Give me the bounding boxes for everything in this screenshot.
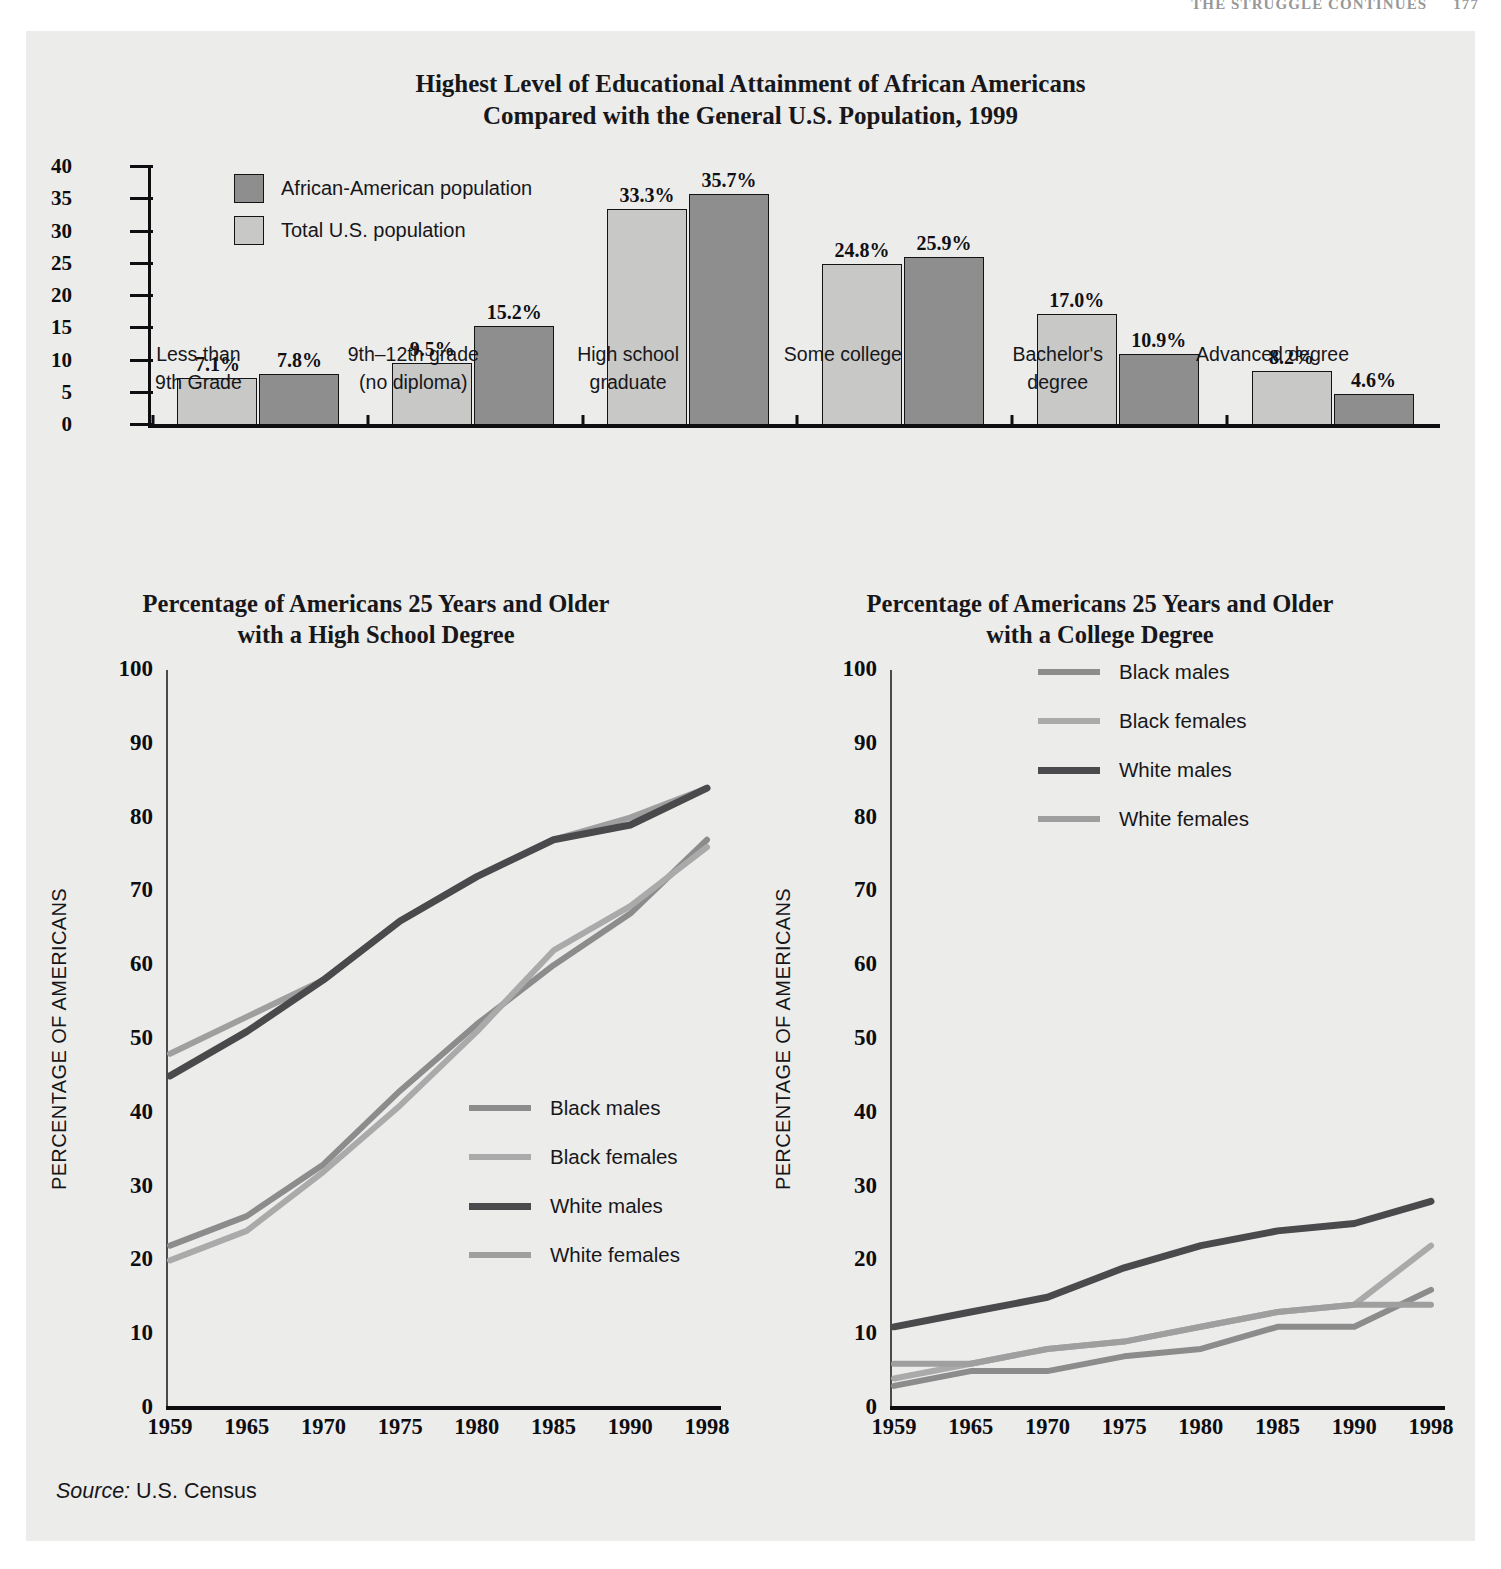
bar-chart-title-line2: Compared with the General U.S. Populatio…	[26, 100, 1475, 132]
line-chart-x-tick-label: 1990	[608, 1414, 653, 1440]
bar-chart-y-tick-label: 0	[30, 412, 72, 437]
bar-category-label-line: (no diploma)	[306, 368, 521, 396]
bar-chart-y-tick	[130, 294, 153, 297]
bar-category-label-line: Less than	[91, 340, 306, 368]
bar-chart-category-labels: Less than9th Grade9th–12th grade(no dipl…	[91, 340, 1380, 397]
bar-category-label: Less than9th Grade	[91, 340, 306, 397]
line-chart-x-tick-label: 1975	[1102, 1414, 1147, 1440]
line-chart-y-tick-label: 60	[817, 951, 877, 977]
line-chart-x-tick-label: 1965	[948, 1414, 993, 1440]
bar-chart-y-tick	[130, 423, 153, 426]
bar-category-label-line: Some college	[735, 340, 950, 368]
line-chart-y-tick-label: 80	[817, 804, 877, 830]
line-chart-y-tick-label: 70	[817, 877, 877, 903]
line-chart-x-tick-label: 1985	[1255, 1414, 1300, 1440]
source-label: Source:	[56, 1479, 130, 1503]
bar-chart-y-tick	[130, 326, 153, 329]
bar-category-label: 9th–12th grade(no diploma)	[306, 340, 521, 397]
line-chart-x-tick-label: 1980	[454, 1414, 499, 1440]
line-chart-y-tick-label: 70	[93, 877, 153, 903]
bar-chart-title-line1: Highest Level of Educational Attainment …	[26, 68, 1475, 100]
line-legend-swatch-icon	[1038, 767, 1100, 774]
line-chart-high-school-title-line1: Percentage of Americans 25 Years and Old…	[14, 588, 738, 619]
running-head-page-number: 177	[1453, 0, 1479, 12]
bar-category-label: Advanced degree	[1165, 340, 1380, 397]
line-series-white-males	[170, 788, 707, 1076]
line-chart-college-title-line1: Percentage of Americans 25 Years and Old…	[738, 588, 1462, 619]
bar-category-label-line: degree	[950, 368, 1165, 396]
bar-chart-y-tick	[130, 197, 153, 200]
line-chart-college-title: Percentage of Americans 25 Years and Old…	[738, 588, 1462, 651]
bar-category-label-line: High school	[521, 340, 736, 368]
line-chart-high-school-plot-area: 0102030405060708090100195919651970197519…	[166, 670, 721, 1408]
bar-category-label-line: 9th–12th grade	[306, 340, 521, 368]
source-value: U.S. Census	[136, 1479, 257, 1503]
line-legend-label: Black females	[1119, 709, 1247, 733]
line-chart-high-school-legend: Black malesBlack femalesWhite malesWhite…	[469, 1096, 680, 1292]
bar-category-label: Bachelor'sdegree	[950, 340, 1165, 397]
line-chart-y-tick-label: 30	[817, 1173, 877, 1199]
line-chart-college-figure: Percentage of Americans 25 Years and Old…	[738, 588, 1462, 1488]
bar-chart-y-tick-label: 40	[30, 154, 72, 179]
line-chart-x-tick-label: 1985	[531, 1414, 576, 1440]
line-chart-y-tick-label: 20	[93, 1246, 153, 1272]
bar-chart-title: Highest Level of Educational Attainment …	[26, 68, 1475, 132]
line-chart-college-legend: Black malesBlack femalesWhite malesWhite…	[1038, 660, 1249, 856]
bar-group-tick	[1011, 415, 1014, 424]
bar-category-label-line: Bachelor's	[950, 340, 1165, 368]
line-chart-y-tick-label: 40	[817, 1099, 877, 1125]
line-legend-item-black-females: Black females	[1038, 709, 1249, 733]
bar-category-label-line: 9th Grade	[91, 368, 306, 396]
bar-chart-y-tick-label: 5	[30, 380, 72, 405]
line-legend-item-white-females: White females	[1038, 807, 1249, 831]
line-legend-item-black-males: Black males	[469, 1096, 680, 1120]
line-legend-swatch-icon	[1038, 816, 1100, 822]
bar-chart-y-tick-label: 15	[30, 315, 72, 340]
line-legend-swatch-icon	[1038, 718, 1100, 724]
line-chart-y-tick-label: 10	[817, 1320, 877, 1346]
bar-chart-y-tick	[130, 262, 153, 265]
line-legend-swatch-icon	[1038, 669, 1100, 675]
line-chart-high-school-lines	[166, 670, 721, 1408]
line-chart-high-school-figure: Percentage of Americans 25 Years and Old…	[14, 588, 738, 1488]
line-chart-x-tick-label: 1990	[1332, 1414, 1377, 1440]
line-legend-label: Black males	[550, 1096, 661, 1120]
line-chart-y-tick-label: 100	[93, 656, 153, 682]
bar-value-label: 24.8%	[834, 239, 889, 262]
line-legend-item-black-males: Black males	[1038, 660, 1249, 684]
line-chart-y-tick-label: 100	[817, 656, 877, 682]
line-legend-label: White males	[550, 1194, 663, 1218]
bar-value-label: 35.7%	[702, 169, 757, 192]
line-chart-x-tick-label: 1980	[1178, 1414, 1223, 1440]
bar-group-tick	[1226, 415, 1229, 424]
line-chart-high-school-title: Percentage of Americans 25 Years and Old…	[14, 588, 738, 651]
bar-group-tick	[581, 415, 584, 424]
bar-value-label: 15.2%	[487, 301, 542, 324]
source-note: Source: U.S. Census	[56, 1479, 257, 1504]
line-chart-x-tick-label: 1965	[224, 1414, 269, 1440]
bar-chart-figure: Highest Level of Educational Attainment …	[26, 60, 1475, 560]
bar-value-label: 33.3%	[620, 184, 675, 207]
line-chart-x-tick-label: 1970	[1025, 1414, 1070, 1440]
line-chart-x-tick-label: 1998	[1409, 1414, 1454, 1440]
bar-chart-y-tick-label: 20	[30, 283, 72, 308]
bar-chart-y-tick	[130, 165, 153, 168]
line-chart-x-tick-label: 1959	[872, 1414, 917, 1440]
line-chart-y-tick-label: 50	[93, 1025, 153, 1051]
line-chart-y-tick-label: 90	[817, 730, 877, 756]
line-chart-college-y-axis-title: PERCENTAGE OF AMERICANS	[772, 888, 795, 1190]
line-chart-y-tick-label: 40	[93, 1099, 153, 1125]
line-chart-y-tick-label: 60	[93, 951, 153, 977]
line-legend-label: Black males	[1119, 660, 1230, 684]
line-chart-y-tick-label: 10	[93, 1320, 153, 1346]
line-legend-item-black-females: Black females	[469, 1145, 680, 1169]
line-legend-swatch-icon	[469, 1154, 531, 1160]
bar-group-tick	[366, 415, 369, 424]
line-chart-y-tick-label: 0	[817, 1394, 877, 1420]
line-chart-high-school-title-line2: with a High School Degree	[14, 619, 738, 650]
bar-aa[interactable]: 4.6%	[1334, 394, 1414, 424]
bar-chart-x-axis	[148, 424, 1440, 428]
running-head-title: THE STRUGGLE CONTINUES	[1191, 0, 1427, 12]
bar-category-label: Some college	[735, 340, 950, 397]
line-legend-label: Black females	[550, 1145, 678, 1169]
